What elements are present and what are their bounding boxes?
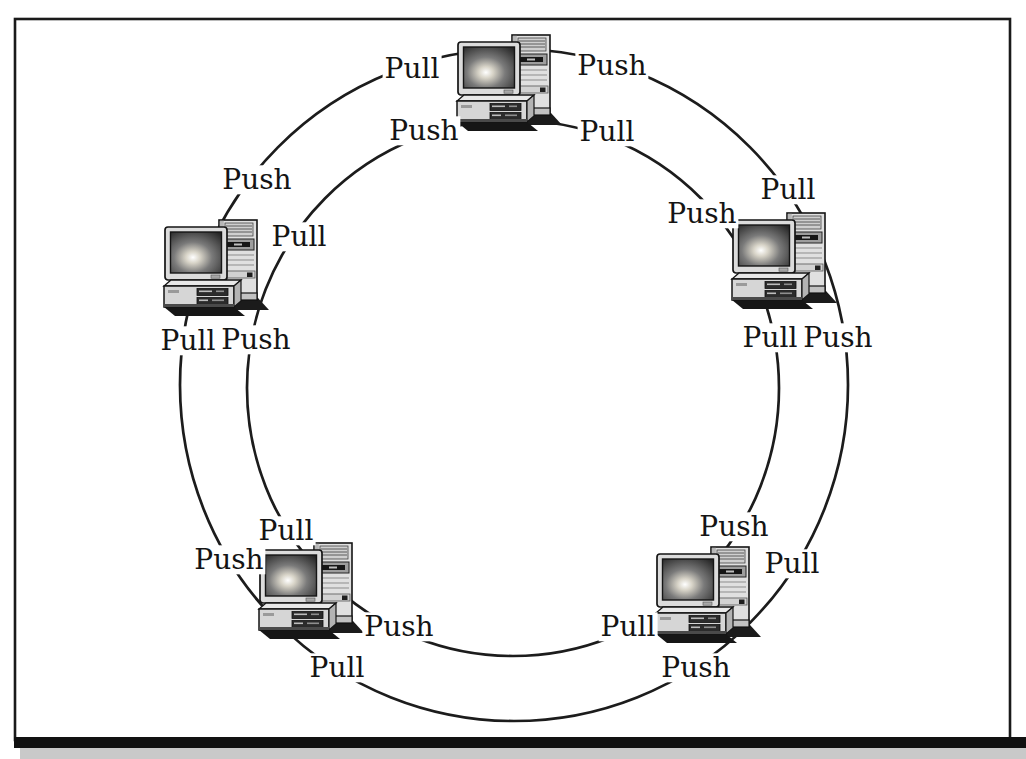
label-top-inner-right: Pull [578, 117, 637, 146]
label-right-inner-bottom: Pull [741, 323, 800, 352]
label-bottom-left-outer-left: Push [192, 545, 265, 574]
bottom-rule [14, 737, 1026, 748]
computer-icon-bottom-right [656, 547, 761, 643]
label-bottom-right-outer-bottom: Push [659, 653, 732, 682]
label-bottom-right-outer-right: Pull [763, 549, 822, 578]
label-top-outer-left: Pull [383, 54, 442, 83]
label-bottom-left-inner-right: Push [362, 612, 435, 641]
label-left-inner-bottom: Push [219, 325, 292, 354]
label-left-outer-bottom: Pull [159, 326, 218, 355]
label-bottom-left-inner-top: Pull [257, 516, 316, 545]
label-left-outer-top: Push [220, 165, 293, 194]
label-bottom-left-outer-bottom: Pull [308, 653, 367, 682]
label-right-outer-top: Pull [759, 175, 818, 204]
computer-icon-right [732, 213, 837, 309]
label-bottom-right-inner-left: Pull [599, 612, 658, 641]
label-left-inner-right: Pull [270, 222, 329, 251]
label-top-inner-left: Push [387, 116, 460, 145]
label-right-outer-bottom: Push [801, 323, 874, 352]
label-bottom-right-inner-top: Push [697, 512, 770, 541]
computer-icon-bottom-left [259, 543, 364, 639]
computer-icon-top [457, 35, 562, 131]
scanned-figure-page: Pull Push Push Pull Push Pull Pull Push … [0, 0, 1026, 759]
computer-icon-left [164, 220, 269, 316]
ring-topology-diagram [0, 0, 1026, 759]
label-right-inner-top: Push [665, 199, 738, 228]
bottom-band [20, 748, 1026, 759]
label-top-outer-right: Push [575, 51, 648, 80]
